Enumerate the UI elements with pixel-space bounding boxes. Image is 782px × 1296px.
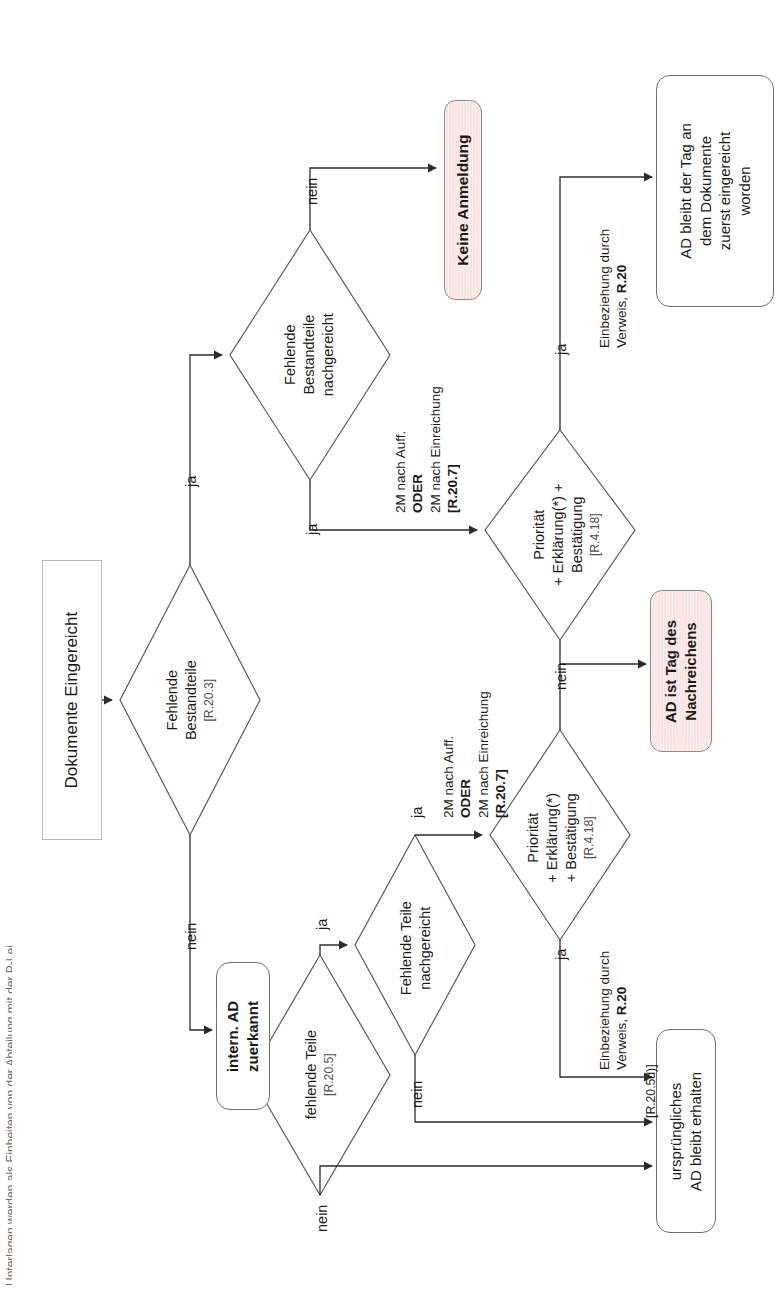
label-diamond-prioritaet-unten: Priorität + Erklärung(*) + Bestätigung [… (508, 768, 614, 908)
urspruengliches-line2: AD bleibt erhalten (686, 1071, 706, 1190)
einbeziehung-oben-line2: Verweis, R.20 (613, 229, 630, 348)
edge-label-frist-oben: 2M nach Auff. ODER 2M nach Einreichung [… (392, 386, 461, 513)
einbeziehung-oben-line1: Einbeziehung durch (596, 229, 613, 348)
frist-unten-line1: 2M nach Auff. (440, 691, 457, 818)
edge-label-einbeziehung-unten: Einbeziehung durch Verweis, R.20 (596, 951, 631, 1070)
edge-d4-nein-to-urspruengliches-ad (320, 1166, 652, 1195)
edge-label-d2-nein: nein (303, 178, 322, 205)
node-urspruengliches-ad-bleibt-erhalten: ursprüngliches AD bleibt erhalten (656, 1029, 716, 1233)
label-diamond-prioritaet-oben: Priorität + Erklärung(*) + Bestätigung [… (512, 460, 622, 610)
d4-ref: [R.20.5] (322, 1030, 338, 1119)
ad-bleibt-line3: zuerst eingereicht (715, 123, 735, 259)
d2-line2: Bestandteile (300, 313, 319, 396)
d3-line3: Bestätigung (569, 484, 588, 586)
edge-d3-nein-to-ad-nachreichens (560, 640, 646, 664)
einbeziehung-oben-prefix: Verweis, (614, 293, 629, 348)
edge-label-frist-unten: 2M nach Auff. ODER 2M nach Einreichung [… (440, 691, 509, 818)
ad-bleibt-line1: AD bleibt der Tag an (676, 123, 696, 259)
d3-line2: + Erklärung(*) + (549, 484, 568, 586)
edge-d1-ja-to-d2 (190, 355, 222, 565)
d6-line2: + Erklärung(*) (543, 793, 562, 883)
node-ad-ist-tag-des-nachreichens: AD ist Tag des Nachreichens (650, 590, 712, 752)
frist-unten-line2: ODER (457, 691, 474, 818)
frist-oben-line1: 2M nach Auff. (392, 386, 409, 513)
edge-label-d1-nein: nein (182, 923, 201, 950)
edge-label-d4-nein: nein (313, 1205, 332, 1232)
frist-oben-line3: 2M nach Einreichung (427, 386, 444, 513)
d1-line1: Fehlende (163, 660, 182, 740)
label-diamond-bestandteile-nachgereicht: Fehlende Bestandteile nachgereicht (258, 280, 362, 430)
edge-label-d5-nein: nein (408, 1081, 427, 1108)
einbeziehung-unten-line1: Einbeziehung durch (596, 951, 613, 1070)
edge-label-d3-ja: ja (552, 344, 571, 355)
d1-ref: [R.20.3] (201, 660, 217, 740)
d6-ref: [R.4.18] (582, 793, 598, 883)
ad-nachreichens-line1: AD ist Tag des (662, 619, 682, 722)
einbeziehung-unten-bold: R.20 (614, 987, 629, 1016)
ad-bleibt-line4: worden (735, 123, 755, 259)
label-diamond-fehlende-bestandteile: Fehlende Bestandteile [R.20.3] (140, 620, 240, 780)
d6-line1: Priorität (524, 793, 543, 883)
urspruengliches-line1: ursprüngliches (667, 1071, 687, 1190)
d3-ref: [R.4.18] (588, 484, 604, 586)
frist-unten-ref: [R.20.7] (492, 691, 509, 818)
edge-label-d2-ja: ja (303, 524, 322, 535)
edge-label-einbeziehung-oben: Einbeziehung durch Verweis, R.20 (596, 229, 631, 348)
intern-ad-line1: intern. AD (224, 1000, 244, 1071)
edge-label-d1-ja: ja (182, 476, 201, 487)
d4-line1: fehlende Teile (302, 1030, 321, 1119)
label-diamond-fehlende-teile: fehlende Teile [R.20.5] (272, 1010, 368, 1140)
d2-line3: nachgereicht (320, 313, 339, 396)
edge-label-d5-ja: ja (408, 807, 427, 818)
d2-line1: Fehlende (281, 313, 300, 396)
node-keine-anmeldung: Keine Anmeldung (444, 100, 482, 300)
edge-label-d3-nein: nein (552, 663, 571, 690)
label-diamond-teile-nachgereicht: Fehlende Teile nachgereicht (368, 888, 464, 1008)
edge-label-ref-r205d: [R.20.5d)] (644, 1064, 660, 1118)
node-intern-ad-zuerkannt: intern. AD zuerkannt (216, 962, 270, 1110)
d5-line1: Fehlende Teile (397, 901, 416, 995)
frist-oben-ref: [R.20.7] (444, 386, 461, 513)
d5-line2: nachgereicht (416, 901, 435, 995)
edge-d2-nein-to-keine-anmeldung (310, 168, 436, 230)
einbeziehung-unten-line2: Verweis, R.20 (613, 951, 630, 1070)
ad-nachreichens-line2: Nachreichens (681, 619, 701, 722)
einbeziehung-oben-bold: R.20 (614, 265, 629, 294)
ad-bleibt-line2: dem Dokumente (696, 123, 716, 259)
d3-line1: Priorität (530, 484, 549, 586)
d6-line3: + Bestätigung (563, 793, 582, 883)
edge-d4-ja-to-d5 (320, 945, 347, 955)
d1-line2: Bestandteile (182, 660, 201, 740)
frist-unten-line3: 2M nach Einreichung (475, 691, 492, 818)
frist-oben-line2: ODER (409, 386, 426, 513)
einbeziehung-unten-prefix: Verweis, (614, 1015, 629, 1070)
flowchart-canvas: Unterlagen werden als Einheiten von der … (0, 0, 782, 1296)
intern-ad-line2: zuerkannt (243, 1000, 263, 1071)
node-start-dokumente-eingereicht: Dokumente Eingereicht (42, 560, 102, 840)
node-ad-bleibt-der-tag: AD bleibt der Tag an dem Dokumente zuers… (656, 75, 774, 307)
edge-label-d6-ja: ja (552, 949, 571, 960)
edge-label-d4-ja: ja (313, 919, 332, 930)
